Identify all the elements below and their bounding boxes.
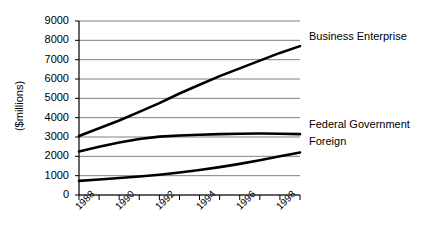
axis-lines (79, 21, 300, 195)
x-axis-tick-marks (79, 195, 300, 200)
line-chart: ($millions) 9000800070006000500040003000… (0, 0, 428, 241)
series-label-federal-government: Federal Government (309, 118, 410, 130)
gridlines (79, 21, 300, 195)
series-lines (79, 46, 300, 181)
series-label-foreign: Foreign (309, 135, 346, 147)
series-label-business-enterprise: Business Enterprise (309, 30, 407, 42)
series-line-1 (79, 134, 300, 152)
